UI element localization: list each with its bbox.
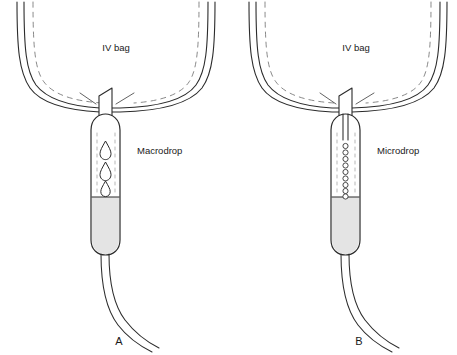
micro-drop-3 (343, 156, 348, 161)
drip-chamber-a (91, 114, 120, 255)
micro-drop-6 (343, 176, 348, 181)
micro-drop-2 (343, 150, 348, 155)
iv-drip-chamber-figure: IV bag Macrodrop A (0, 0, 457, 355)
panel-letter-b: B (355, 335, 362, 347)
micro-drop-9 (343, 194, 348, 199)
chamber-label-a: Macrodrop (137, 145, 182, 156)
micro-drop-1 (343, 143, 348, 148)
micro-drop-5 (343, 169, 348, 174)
iv-bag-label-a: IV bag (102, 42, 129, 53)
panel-letter-a: A (115, 335, 123, 347)
micro-drop-7 (343, 182, 348, 187)
drip-chamber-b (331, 114, 360, 255)
figure-background (0, 0, 457, 355)
chamber-label-b: Microdrop (377, 145, 419, 156)
micro-drop-8 (343, 188, 348, 193)
chamber-fluid-a (92, 197, 119, 254)
micro-drop-4 (343, 163, 348, 168)
chamber-fluid-b (332, 197, 359, 254)
iv-bag-label-b: IV bag (342, 42, 369, 53)
figure-canvas: IV bag Macrodrop A (0, 0, 457, 355)
